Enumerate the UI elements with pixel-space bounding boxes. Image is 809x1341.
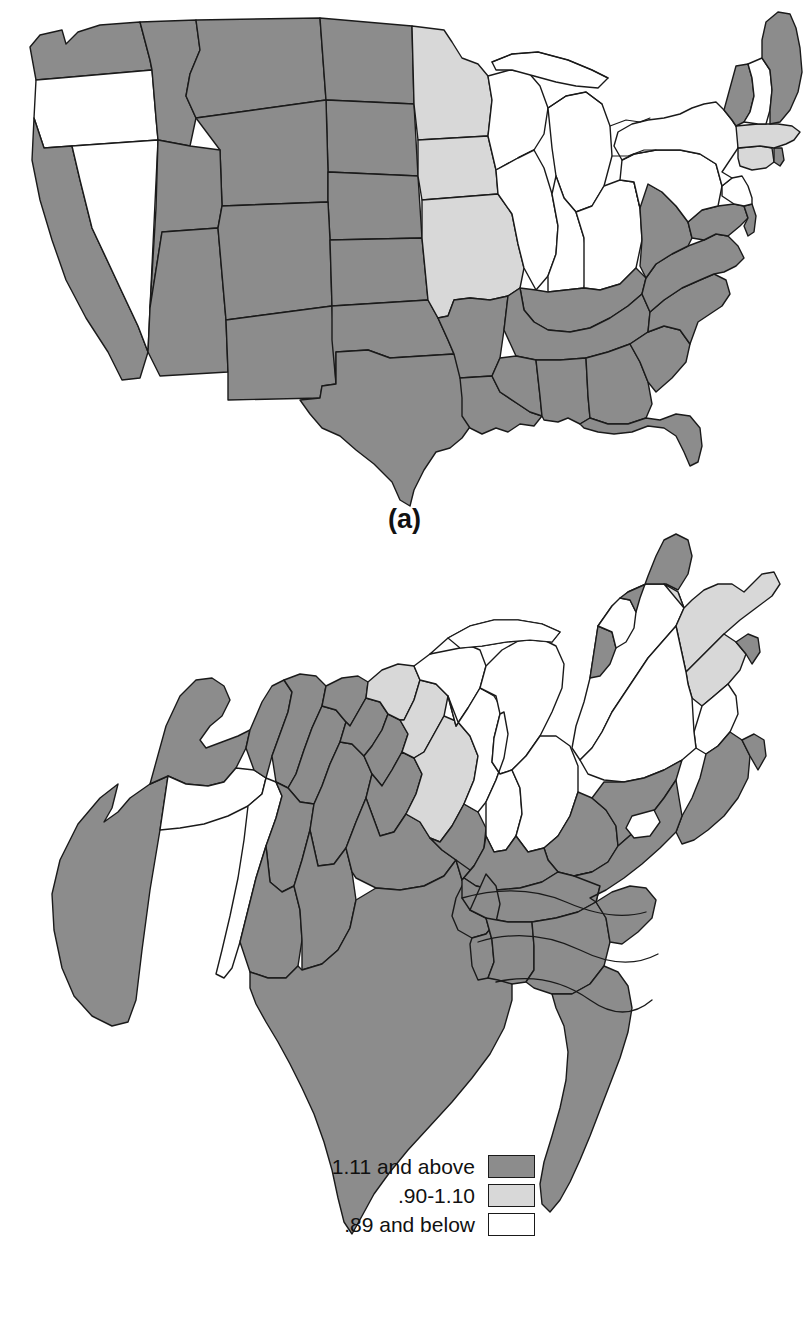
state-nd (320, 18, 414, 104)
two-panel-map-figure: (a) (0, 0, 809, 1341)
state-ct (738, 146, 774, 170)
cartogram-state-fl (540, 966, 632, 1212)
legend-swatch-low (488, 1213, 535, 1236)
state-ks (330, 238, 428, 306)
state-ia (418, 136, 498, 200)
cartogram-state-al (486, 918, 534, 984)
legend-label-low: .89 and below (344, 1214, 475, 1235)
state-sd (326, 100, 418, 176)
state-wi (488, 70, 548, 170)
legend-swatch-high (488, 1155, 535, 1178)
map-legend: 1.11 and above .90-1.10 .89 and below (330, 1152, 535, 1239)
legend-swatch-mid (488, 1184, 535, 1207)
state-ne (328, 172, 422, 240)
legend-label-mid: .90-1.10 (398, 1185, 475, 1206)
state-ma (736, 124, 800, 148)
legend-label-high: 1.11 and above (332, 1156, 475, 1177)
map-panel-a: (a) (0, 0, 809, 560)
state-az (148, 228, 228, 376)
legend-row-low: .89 and below (330, 1210, 535, 1239)
state-co (218, 202, 332, 320)
legend-row-mid: .90-1.10 (330, 1181, 535, 1210)
choropleth-map-conventional (0, 0, 809, 560)
state-or (34, 70, 158, 148)
cartogram-state-ca (52, 776, 168, 1026)
state-fl (580, 414, 702, 466)
state-nm (226, 306, 336, 400)
state-al (536, 358, 590, 424)
legend-row-high: 1.11 and above (330, 1152, 535, 1181)
state-ri (774, 148, 784, 166)
state-mn (412, 26, 492, 140)
